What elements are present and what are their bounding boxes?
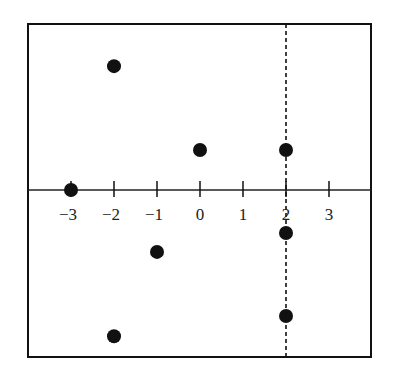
x-axis-tick-labels: −3−2−10123 bbox=[59, 205, 333, 224]
x-tick-label: 2 bbox=[282, 205, 291, 224]
data-point bbox=[279, 226, 293, 240]
x-tick-label: −3 bbox=[59, 205, 77, 224]
x-tick-label: 0 bbox=[196, 205, 205, 224]
data-point bbox=[107, 59, 121, 73]
data-point bbox=[64, 183, 78, 197]
x-axis-ticks bbox=[71, 181, 329, 197]
data-point bbox=[150, 245, 164, 259]
x-tick-label: −2 bbox=[102, 205, 120, 224]
data-points bbox=[64, 59, 293, 343]
data-point bbox=[279, 143, 293, 157]
scatter-plot: −3−2−10123 bbox=[0, 0, 394, 380]
data-point bbox=[279, 309, 293, 323]
x-tick-label: −1 bbox=[145, 205, 163, 224]
x-tick-label: 1 bbox=[239, 205, 248, 224]
data-point bbox=[107, 329, 121, 343]
x-tick-label: 3 bbox=[325, 205, 334, 224]
data-point bbox=[193, 143, 207, 157]
